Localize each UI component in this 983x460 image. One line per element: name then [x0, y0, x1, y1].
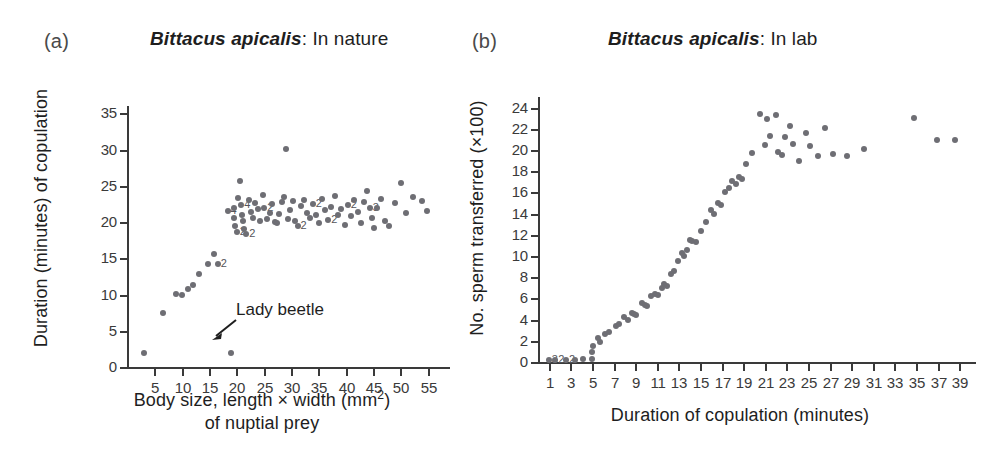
data-point — [787, 123, 793, 129]
x-axis-tick — [851, 364, 853, 371]
y-axis-tick — [120, 367, 127, 369]
data-point — [313, 212, 319, 218]
x-axis-tick — [830, 364, 832, 371]
data-point — [773, 112, 779, 118]
y-axis-tick-label: 22 — [486, 120, 528, 137]
data-point — [228, 350, 234, 356]
y-axis-tick — [531, 235, 538, 237]
data-point — [248, 209, 254, 215]
data-point — [767, 133, 773, 139]
data-point — [255, 206, 261, 212]
panel-a-x-axis-title-line1: Body size, length × width (mm2) — [134, 390, 391, 410]
data-point — [269, 201, 275, 207]
data-point — [342, 222, 348, 228]
data-point — [934, 137, 940, 143]
panel-b-y-axis-title: No. sperm transferred (×100) — [466, 78, 489, 358]
data-point — [807, 143, 813, 149]
data-point — [211, 251, 217, 257]
y-axis-tick — [531, 108, 538, 110]
x-axis-tick — [400, 369, 402, 376]
data-point — [179, 292, 185, 298]
y-axis-spine — [127, 106, 129, 369]
data-point — [250, 215, 256, 221]
y-axis-tick-label: 16 — [486, 183, 528, 200]
data-point — [703, 219, 709, 225]
data-point — [419, 198, 425, 204]
y-axis-tick-label: 20 — [75, 213, 117, 230]
y-axis-tick — [531, 150, 538, 152]
data-point — [274, 220, 280, 226]
data-point — [718, 202, 724, 208]
data-point — [655, 292, 661, 298]
y-axis-tick-label: 12 — [486, 226, 528, 243]
y-axis-tick — [531, 298, 538, 300]
data-point — [572, 357, 578, 363]
data-point — [597, 339, 603, 345]
data-point — [693, 239, 699, 245]
data-point — [392, 200, 398, 206]
lady-beetle-annotation: Lady beetle — [236, 300, 324, 320]
data-point — [335, 212, 341, 218]
data-point — [276, 211, 282, 217]
data-point — [281, 194, 287, 200]
data-point — [307, 215, 313, 221]
data-point — [301, 197, 307, 203]
data-point — [424, 208, 430, 214]
data-point — [410, 194, 416, 200]
panel-a-x-axis-title: Body size, length × width (mm2) of nupti… — [92, 388, 432, 434]
y-axis-tick — [531, 256, 538, 258]
data-point — [316, 220, 322, 226]
x-axis-tick — [722, 364, 724, 371]
data-point — [231, 215, 237, 221]
data-point-count-label: 2 — [221, 257, 227, 269]
data-point — [205, 261, 211, 267]
data-point — [355, 209, 361, 215]
y-axis-tick-label: 30 — [75, 141, 117, 158]
data-point — [764, 116, 770, 122]
data-point — [757, 111, 763, 117]
data-point — [633, 312, 639, 318]
data-point — [246, 197, 252, 203]
data-point — [338, 206, 344, 212]
data-point — [232, 223, 238, 229]
data-point — [815, 153, 821, 159]
y-axis-tick — [531, 129, 538, 131]
data-point — [671, 268, 677, 274]
data-point — [240, 218, 246, 224]
data-point — [675, 258, 681, 264]
data-point — [616, 321, 622, 327]
x-axis-tick — [938, 364, 940, 371]
data-point — [332, 193, 338, 199]
y-axis-tick-label: 35 — [75, 104, 117, 121]
x-axis-tick — [765, 364, 767, 371]
y-axis-tick-label: 18 — [486, 162, 528, 179]
y-axis-tick-label: 10 — [486, 247, 528, 264]
data-point-count-label: 2 — [249, 227, 255, 239]
data-point — [952, 137, 958, 143]
x-axis-tick — [236, 369, 238, 376]
x-axis-tick — [264, 369, 266, 376]
y-axis-tick-label: 24 — [486, 99, 528, 116]
y-axis-tick-label: 2 — [486, 332, 528, 349]
data-point — [298, 203, 304, 209]
data-point — [285, 216, 291, 222]
data-point-count-label: 2 — [301, 219, 307, 231]
y-axis-tick — [531, 214, 538, 216]
data-point — [361, 199, 367, 205]
data-point — [625, 317, 631, 323]
y-axis-tick — [120, 150, 127, 152]
panel-b: (b) Bittacus apicalis: In lab 0246810121… — [470, 0, 983, 460]
data-point — [664, 283, 670, 289]
x-axis-tick — [700, 364, 702, 371]
x-axis-tick — [318, 369, 320, 376]
y-axis-tick-label: 15 — [75, 249, 117, 266]
y-axis-tick — [120, 113, 127, 115]
y-axis-tick-label: 14 — [486, 205, 528, 222]
panel-a-y-axis-title: Duration (minutes) of copulation — [30, 68, 53, 368]
data-point — [911, 115, 917, 121]
y-axis-tick — [120, 295, 127, 297]
lady-beetle-arrow-icon — [206, 316, 246, 346]
data-point — [235, 195, 241, 201]
x-axis-tick-label: 39 — [944, 374, 976, 391]
panel-a: (a) Bittacus apicalis: In nature 0510152… — [0, 0, 470, 460]
